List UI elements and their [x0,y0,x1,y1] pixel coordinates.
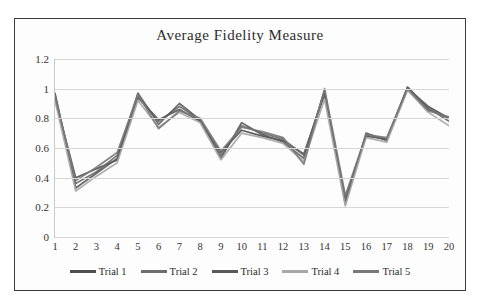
x-axis-tick-label: 2 [73,241,78,252]
series-line-trial-3 [55,87,449,204]
legend-item[interactable]: Trial 3 [212,266,269,277]
y-axis-tick-label: 0 [44,231,50,243]
chart-frame: Average Fidelity Measure 00.20.40.60.811… [14,18,466,291]
x-axis-tick-label: 9 [218,241,223,252]
x-axis-tick-label: 4 [115,241,120,252]
gridline [55,59,449,60]
legend-item[interactable]: Trial 4 [282,266,339,277]
legend-line-swatch [353,270,379,273]
y-axis-tick-label: 1.2 [35,53,49,65]
x-axis-tick-label: 11 [257,241,267,252]
y-axis-tick-label: 0.2 [35,201,49,213]
y-axis-tick-label: 0.6 [35,142,49,154]
gridline [55,89,449,90]
legend-item[interactable]: Trial 1 [70,266,127,277]
legend-item[interactable]: Trial 2 [141,266,198,277]
chart-title: Average Fidelity Measure [15,27,465,44]
legend-line-swatch [70,270,96,273]
x-axis-tick-label: 13 [299,241,310,252]
legend-line-swatch [282,270,308,273]
legend-label: Trial 1 [99,266,127,277]
x-axis-tick-labels: 1234567891011121314151617181920 [55,241,449,259]
gridline [55,237,449,238]
series-line-trial-2 [55,87,449,201]
series-line-trial-1 [55,89,449,199]
y-axis-tick-label: 0.8 [35,112,49,124]
gridline [55,207,449,208]
legend-line-swatch [212,270,238,273]
x-axis-tick-label: 16 [361,241,372,252]
series-line-trial-5 [55,89,449,196]
x-axis-tick-label: 3 [94,241,99,252]
legend-label: Trial 3 [241,266,269,277]
legend-label: Trial 5 [382,266,410,277]
x-axis-tick-label: 10 [236,241,247,252]
x-axis-tick-label: 15 [340,241,351,252]
x-axis-tick-label: 7 [177,241,182,252]
legend-line-swatch [141,270,167,273]
x-axis-tick-label: 5 [135,241,140,252]
x-axis-tick-label: 19 [423,241,434,252]
x-axis-tick-label: 12 [278,241,289,252]
x-axis-tick-label: 1 [52,241,57,252]
y-axis-tick-label: 0.4 [35,172,49,184]
legend-item[interactable]: Trial 5 [353,266,410,277]
legend-label: Trial 2 [170,266,198,277]
x-axis-tick-label: 14 [319,241,330,252]
x-axis-tick-label: 18 [402,241,413,252]
x-axis-tick-label: 17 [382,241,393,252]
gridline [55,178,449,179]
x-axis-tick-label: 6 [156,241,161,252]
gridline [55,148,449,149]
x-axis-tick-label: 8 [198,241,203,252]
chart-legend: Trial 1Trial 2Trial 3Trial 4Trial 5 [15,266,465,277]
gridline [55,118,449,119]
legend-label: Trial 4 [311,266,339,277]
x-axis-tick-label: 20 [444,241,455,252]
y-axis-tick-label: 1 [44,83,50,95]
plot-area: 00.20.40.60.811.2 [55,59,449,237]
